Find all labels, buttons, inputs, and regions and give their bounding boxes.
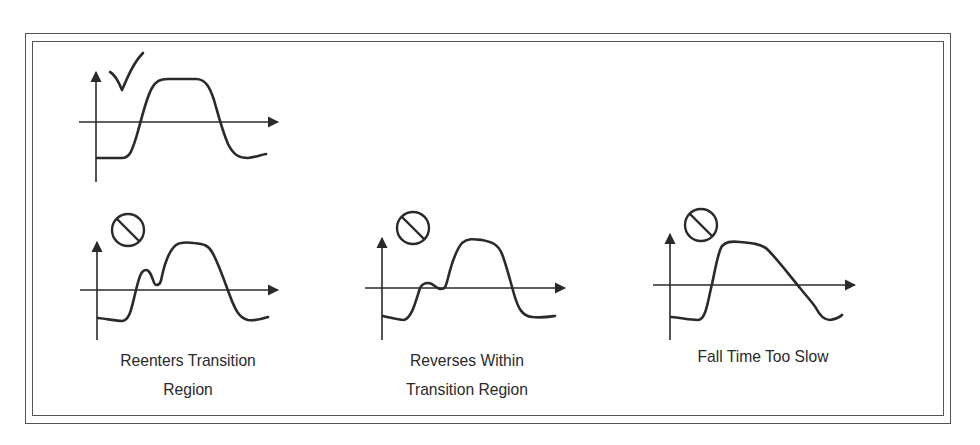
prohibited-icon	[112, 214, 144, 246]
caption-fall-time-too-slow: Fall Time Too Slow	[671, 342, 855, 371]
panel-good	[79, 53, 278, 182]
waveform	[671, 242, 842, 320]
caption-line: Region	[96, 375, 280, 404]
caption-line: Transition Region	[375, 375, 559, 404]
panel-reverses	[365, 212, 565, 340]
caption-line: Fall Time Too Slow	[671, 342, 855, 371]
caption-line: Reverses Within	[375, 346, 559, 375]
waveform	[383, 239, 555, 320]
checkmark-icon	[110, 53, 143, 90]
waveform	[98, 242, 268, 321]
prohibited-icon	[685, 209, 717, 241]
panel-reenters	[80, 214, 278, 340]
caption-reverses-within-transition-region: Reverses Within Transition Region	[375, 346, 559, 404]
prohibited-icon	[397, 212, 429, 244]
caption-reenters-transition-region: Reenters Transition Region	[96, 346, 280, 404]
panel-fall-slow	[653, 209, 855, 340]
caption-line: Reenters Transition	[96, 346, 280, 375]
